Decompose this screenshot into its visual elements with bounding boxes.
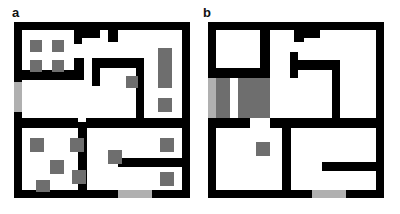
obstacle-r1-b (52, 40, 64, 52)
panel-label-a: a (12, 6, 19, 19)
figure-root: ab (0, 0, 400, 214)
obstacle-center-single (256, 142, 270, 156)
obstacle-r4-c (160, 172, 174, 186)
outer-wall-right (182, 22, 190, 198)
obstacle-r3-e (72, 170, 86, 184)
wall-mid-corridor-v (136, 66, 144, 122)
wall-center-divider (22, 118, 78, 128)
gray-region-upper (238, 78, 270, 86)
obstacle-r4-a (108, 150, 122, 164)
obstacle-r1-d (52, 60, 64, 72)
wall-room3-right-v (282, 122, 291, 190)
wall-top-notch-b (294, 30, 304, 42)
wall-room1-right-lower (74, 58, 84, 72)
obstacle-r3-b (50, 160, 64, 174)
panel-b (208, 22, 384, 198)
wall-mid-corner-block (126, 76, 138, 88)
obstacle-r3-c (36, 180, 50, 192)
panel-a (14, 22, 190, 198)
gray-region-left (216, 78, 230, 118)
obstacle-r4-b (160, 138, 174, 152)
outer-wall-top (208, 22, 384, 30)
gray-region-right (260, 86, 270, 118)
obstacle-r3-d (70, 138, 84, 152)
wall-top-notch-a (260, 30, 270, 42)
wall-top-notch-a (82, 30, 100, 38)
door-bottom-exterior (118, 190, 152, 198)
wall-center-divider (208, 118, 250, 128)
obstacle-r1-c (30, 60, 42, 72)
outer-wall-right (376, 22, 384, 198)
outer-wall-top (14, 22, 190, 30)
wall-room1-right-upper (74, 30, 82, 44)
door-bottom-exterior (312, 190, 346, 198)
obstacle-r1-a (30, 40, 42, 52)
wall-room1-right-v (260, 42, 270, 72)
obstacle-right-mid (158, 98, 172, 112)
wall-top-notch-b (108, 30, 118, 42)
wall-center-divider-2 (86, 118, 136, 128)
door-left-exterior (208, 78, 216, 118)
wall-center-divider-3 (136, 118, 182, 128)
outer-wall-bottom (208, 190, 384, 198)
wall-mid-corridor-top (92, 58, 100, 86)
obstacle-r3-a (30, 138, 44, 152)
panel-label-b: b (203, 6, 211, 19)
wall-room4-shelf (118, 158, 182, 167)
door-left-exterior (14, 82, 22, 112)
wall-center-divider-3 (320, 118, 378, 128)
wall-room4-shelf (322, 162, 376, 171)
obstacle-right-tall (158, 48, 172, 88)
wall-top-notch-c (304, 30, 320, 38)
